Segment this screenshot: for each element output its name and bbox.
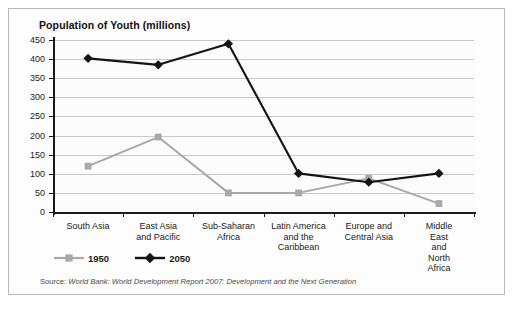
y-tick-label: 250 <box>30 111 45 121</box>
y-tick-label: 400 <box>30 54 45 64</box>
source-lead: Source: <box>40 277 66 286</box>
data-point <box>436 200 443 207</box>
legend-item-1950: 1950 <box>54 252 109 264</box>
data-point <box>295 189 302 196</box>
data-point <box>225 189 232 196</box>
x-axis-line <box>53 212 476 214</box>
data-point <box>294 169 303 178</box>
chart-title: Population of Youth (millions) <box>39 19 190 31</box>
legend-label: 2050 <box>169 253 190 264</box>
x-category-label: Sub-Saharan Africa <box>202 221 255 242</box>
data-point <box>85 163 92 170</box>
legend-label: 1950 <box>88 253 109 264</box>
y-tick-label: 0 <box>40 207 45 217</box>
x-category-label: East Asia and Pacific <box>136 221 180 242</box>
series-line <box>88 137 439 204</box>
y-tick-label: 450 <box>30 35 45 45</box>
y-tick-label: 150 <box>30 150 45 160</box>
legend-swatch-square-icon <box>54 252 84 264</box>
x-category-label: South Asia <box>67 221 110 232</box>
y-tick-label: 50 <box>35 188 45 198</box>
legend: 19502050 <box>54 252 190 264</box>
data-point <box>434 169 443 178</box>
legend-swatch-diamond-icon <box>135 252 165 264</box>
x-category-label: Europe and Central Asia <box>344 221 393 242</box>
data-point <box>224 39 233 48</box>
source-text: World Bank: World Development Report 200… <box>68 277 356 286</box>
y-tick-label: 100 <box>30 169 45 179</box>
x-category-label: Middle East and North Africa <box>421 221 456 274</box>
data-point <box>83 54 92 63</box>
x-category-label: Latin America and the Caribbean <box>271 221 326 253</box>
y-tick-label: 200 <box>30 131 45 141</box>
series-line <box>88 44 439 182</box>
data-point <box>155 134 162 141</box>
y-tick-label: 350 <box>30 73 45 83</box>
series-1950 <box>85 134 443 207</box>
source-note: Source: World Bank: World Development Re… <box>40 277 356 286</box>
chart-figure: Population of Youth (millions) 050100150… <box>8 8 505 295</box>
legend-item-2050: 2050 <box>135 252 190 264</box>
series-layer <box>53 40 474 212</box>
y-tick-label: 300 <box>30 92 45 102</box>
plot-area: 050100150200250300350400450 South AsiaEa… <box>53 40 474 212</box>
data-point <box>154 60 163 69</box>
series-2050 <box>83 39 443 187</box>
